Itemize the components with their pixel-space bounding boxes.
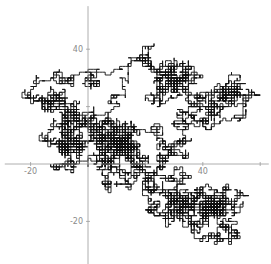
x-tick-label: 40 bbox=[198, 167, 208, 176]
y-tick-label: -20 bbox=[70, 217, 83, 226]
y-tick-label: 40 bbox=[73, 45, 83, 54]
x-tick-label: -20 bbox=[24, 167, 37, 176]
random-walk-plot: -2040 -2040 bbox=[0, 0, 271, 264]
random-walk-path bbox=[22, 44, 260, 245]
walk-path-group bbox=[22, 44, 260, 245]
